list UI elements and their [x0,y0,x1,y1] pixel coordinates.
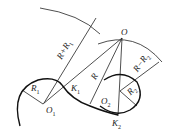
label-point-o: O [121,28,128,37]
dim-r-plus-r1 [44,18,96,103]
arc-r-minus-r2 [98,40,162,62]
dim-r [90,38,122,104]
diagram-canvas: R1 R+R1 R R−R2 R2 O O1 O2 K1 K2 [0,0,171,139]
label-point-o1: O1 [46,106,56,117]
label-point-o2: O2 [101,97,111,108]
label-point-k2: K2 [112,119,121,130]
label-point-k1: K1 [71,84,80,95]
construction-drawing [0,0,171,139]
line-o1-o [43,38,122,104]
line-o-k2 [118,38,122,116]
arc-r-plus-r1 [40,8,100,34]
circle-o1-arc [17,79,62,126]
label-r1: R1 [31,84,40,95]
